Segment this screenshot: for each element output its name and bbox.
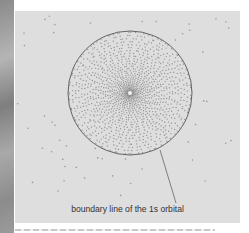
- electron-dots: [17, 16, 232, 197]
- boundary-label: boundary line of the 1s orbital: [15, 204, 240, 214]
- leader-line: [160, 150, 176, 203]
- caption-text-fragment: [15, 229, 215, 231]
- electron-density-dot-plot: [15, 11, 240, 223]
- orbital-diagram-panel: boundary line of the 1s orbital: [15, 11, 240, 223]
- photo-edge-strip: [0, 0, 14, 233]
